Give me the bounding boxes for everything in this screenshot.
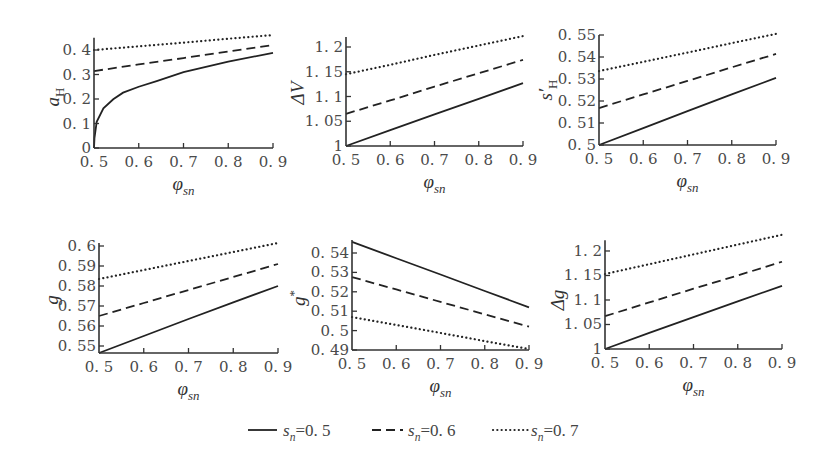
- y-tick-label: 0. 55: [558, 26, 596, 44]
- x-tick-label: 0. 6: [129, 358, 158, 376]
- y-tick-label: 0. 5: [320, 322, 349, 340]
- y-tick-label: 1. 2: [573, 242, 602, 260]
- x-tick-label: 0. 8: [717, 150, 746, 168]
- y-tick-label: 0. 49: [311, 341, 349, 359]
- figure: 0. 50. 60. 70. 80. 900. 10. 20. 30. 4φsn…: [0, 0, 834, 465]
- x-tick-label: 0. 9: [264, 358, 293, 376]
- x-tick-label: 0. 6: [629, 150, 658, 168]
- y-tick-label: 0. 52: [558, 92, 596, 110]
- y-tick-label: 0. 59: [58, 257, 96, 275]
- y-tick-label: 1. 1: [314, 88, 343, 106]
- y-axis-label: ΔV: [287, 79, 308, 105]
- y-tick-label: 0. 54: [311, 244, 349, 262]
- y-tick-label: 1. 2: [314, 38, 343, 56]
- y-tick-label: 1. 15: [305, 63, 343, 81]
- y-tick-label: 0. 55: [58, 337, 96, 355]
- y-tick-label: 1. 05: [564, 315, 602, 333]
- y-tick-label: 0. 3: [62, 66, 91, 84]
- x-tick-label: 0. 7: [420, 151, 449, 169]
- x-tick-label: 0. 8: [470, 355, 499, 373]
- y-tick-label: 1: [333, 137, 343, 155]
- y-tick-label: 0. 54: [558, 48, 596, 66]
- x-tick-label: 0. 9: [259, 153, 288, 171]
- y-axis-label: g: [41, 295, 62, 305]
- x-tick-label: 0. 9: [509, 151, 538, 169]
- y-tick-label: 1. 15: [564, 266, 602, 284]
- y-tick-label: 0. 56: [58, 317, 96, 335]
- y-tick-label: 0. 4: [62, 41, 91, 59]
- y-tick-label: 0. 53: [311, 263, 349, 281]
- y-axis-label: Δg: [547, 290, 568, 312]
- y-tick-label: 0. 5: [567, 136, 596, 154]
- x-tick-label: 0. 6: [124, 153, 153, 171]
- y-tick-label: 0. 1: [62, 115, 91, 133]
- y-tick-label: 0. 53: [558, 70, 596, 88]
- x-tick-label: 0. 9: [515, 355, 544, 373]
- x-tick-label: 0. 6: [376, 151, 405, 169]
- x-tick-label: 0. 5: [85, 358, 114, 376]
- x-tick-label: 0. 9: [768, 354, 797, 372]
- x-tick-label: 0. 7: [673, 150, 702, 168]
- x-tick-label: 0. 7: [169, 153, 198, 171]
- y-tick-label: 0. 58: [58, 277, 96, 295]
- x-tick-label: 0. 8: [723, 354, 752, 372]
- y-tick-label: 0. 57: [58, 297, 96, 315]
- y-tick-label: 1. 05: [305, 112, 343, 130]
- x-tick-label: 0. 7: [426, 355, 455, 373]
- x-tick-label: 0. 8: [214, 153, 243, 171]
- y-tick-label: 0. 51: [311, 302, 349, 320]
- y-tick-label: 1: [592, 340, 602, 358]
- x-tick-label: 0. 8: [464, 151, 493, 169]
- x-tick-label: 0. 7: [174, 358, 203, 376]
- y-tick-label: 1. 1: [573, 291, 602, 309]
- x-tick-label: 0. 6: [382, 355, 411, 373]
- y-tick-label: 0. 6: [67, 237, 96, 255]
- figure-background: [0, 0, 834, 465]
- x-tick-label: 0. 8: [219, 358, 248, 376]
- y-tick-label: 0: [81, 139, 91, 157]
- y-tick-label: 0. 52: [311, 283, 349, 301]
- x-tick-label: 0. 9: [762, 150, 791, 168]
- x-tick-label: 0. 6: [635, 354, 664, 372]
- y-tick-label: 0. 51: [558, 114, 596, 132]
- x-tick-label: 0. 7: [679, 354, 708, 372]
